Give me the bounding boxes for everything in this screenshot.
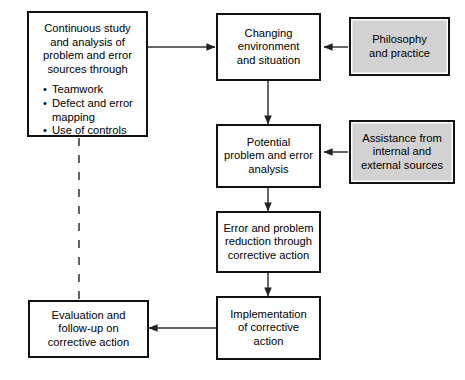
node-line: Evaluation and	[51, 309, 125, 323]
flowchart-diagram: Continuous study and analysis of problem…	[0, 0, 465, 380]
node-line: external sources	[361, 159, 443, 173]
node-line: and practice	[369, 47, 430, 61]
node-line: reduction through	[225, 235, 312, 249]
node-philosophy-and-practice[interactable]: Philosophy and practice	[349, 17, 450, 76]
node-continuous-study-heading: Continuous study and analysis of problem…	[43, 22, 132, 76]
node-line: Potential	[247, 136, 291, 150]
node-line: Assistance from	[362, 132, 442, 146]
heading-line: problem and error	[43, 49, 132, 63]
node-line: action	[254, 335, 284, 349]
node-line: corrective action	[48, 336, 129, 350]
node-line: of corrective	[238, 321, 299, 335]
node-line: follow-up on	[58, 322, 118, 336]
node-continuous-study-bullet-list: Teamwork Defect and error mapping Use of…	[43, 83, 146, 137]
node-line: Changing	[245, 27, 293, 41]
node-line: Philosophy	[372, 33, 427, 47]
bullet-item: Defect and error mapping	[43, 97, 146, 124]
node-implementation[interactable]: Implementation of corrective action	[216, 296, 321, 360]
node-line: problem and error	[224, 149, 313, 163]
node-changing-environment[interactable]: Changing environment and situation	[216, 13, 321, 81]
node-potential-problem-analysis[interactable]: Potential problem and error analysis	[216, 124, 321, 188]
node-evaluation[interactable]: Evaluation and follow-up on corrective a…	[28, 300, 149, 358]
heading-line: sources through	[43, 63, 132, 77]
node-line: Implementation	[230, 308, 307, 322]
node-assistance-from-sources[interactable]: Assistance from internal and external so…	[349, 120, 455, 184]
node-line: internal and	[373, 145, 431, 159]
node-error-reduction[interactable]: Error and problem reduction through corr…	[216, 211, 321, 273]
heading-line: and analysis of	[43, 36, 132, 50]
node-line: Error and problem	[223, 222, 313, 236]
node-continuous-study[interactable]: Continuous study and analysis of problem…	[27, 11, 148, 137]
bullet-item: Teamwork	[43, 83, 146, 97]
node-line: and situation	[237, 54, 300, 68]
bullet-item: Use of controls	[43, 124, 146, 138]
node-line: analysis	[248, 163, 288, 177]
node-line: corrective action	[228, 249, 309, 263]
node-line: environment	[238, 40, 300, 54]
heading-line: Continuous study	[43, 22, 132, 36]
